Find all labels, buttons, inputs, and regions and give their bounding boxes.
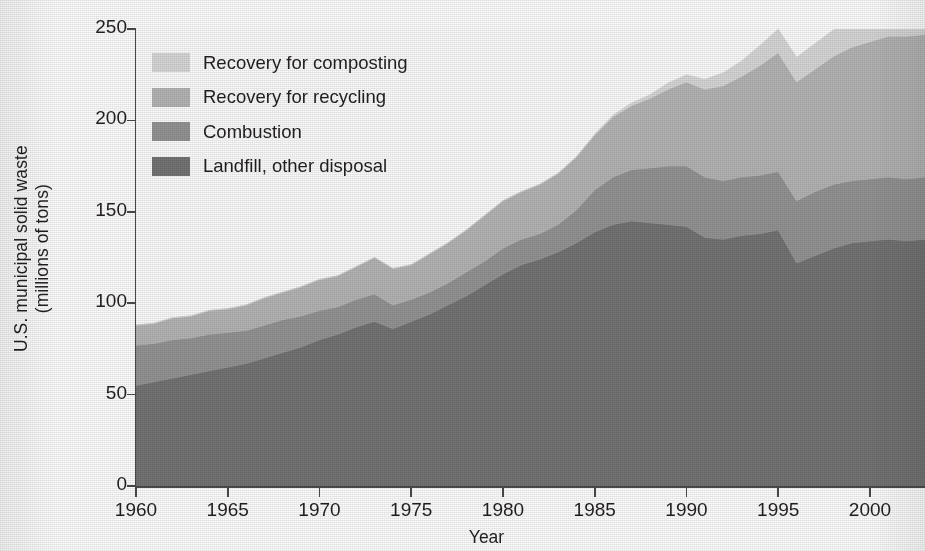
x-tick-label: 2000 xyxy=(825,499,915,521)
x-tick-label: 1980 xyxy=(458,499,548,521)
x-tick-label: 1970 xyxy=(274,499,364,521)
legend-item: Combustion xyxy=(152,117,408,146)
y-axis-title-line-1: U.S. municipal solid waste xyxy=(11,145,31,352)
x-axis-title-text: Year xyxy=(469,527,504,547)
y-axis-title-line-2: (millions of tons) xyxy=(32,69,53,429)
y-tick-label: 200 xyxy=(67,107,127,129)
x-tick-label: 1990 xyxy=(641,499,731,521)
y-tick-label: 100 xyxy=(67,290,127,312)
legend-item: Recovery for composting xyxy=(152,48,408,77)
legend-label: Recovery for composting xyxy=(203,52,408,74)
x-tick-label: 1995 xyxy=(733,499,823,521)
x-tick-mark xyxy=(410,487,412,497)
legend-item: Recovery for recycling xyxy=(152,83,408,112)
legend-label: Recovery for recycling xyxy=(203,86,386,108)
x-tick-label: 1965 xyxy=(183,499,273,521)
x-tick-mark xyxy=(227,487,229,497)
x-axis-title: Year xyxy=(0,527,925,548)
x-tick-mark xyxy=(319,487,321,497)
x-tick-mark xyxy=(686,487,688,497)
legend-swatch-icon xyxy=(152,88,190,107)
legend-label: Combustion xyxy=(203,121,302,143)
legend-label: Landfill, other disposal xyxy=(203,155,387,177)
x-tick-mark xyxy=(869,487,871,497)
x-tick-mark xyxy=(777,487,779,497)
legend-swatch-icon xyxy=(152,157,190,176)
y-tick-label: 50 xyxy=(67,382,127,404)
x-tick-label: 1975 xyxy=(366,499,456,521)
y-tick-label: 150 xyxy=(67,199,127,221)
x-axis-line xyxy=(135,486,925,488)
chart-figure: U.S. municipal solid waste (millions of … xyxy=(0,0,925,551)
x-tick-label: 1960 xyxy=(91,499,181,521)
legend-swatch-icon xyxy=(152,53,190,72)
x-tick-mark xyxy=(135,487,137,497)
x-tick-mark xyxy=(502,487,504,497)
legend-swatch-icon xyxy=(152,122,190,141)
y-tick-label: 250 xyxy=(67,16,127,38)
legend-item: Landfill, other disposal xyxy=(152,152,408,181)
x-tick-mark xyxy=(594,487,596,497)
y-tick-label: 0 xyxy=(67,473,127,495)
chart-legend: Recovery for compostingRecovery for recy… xyxy=(152,48,408,186)
y-axis-title: U.S. municipal solid waste (millions of … xyxy=(11,69,52,429)
x-tick-label: 1985 xyxy=(550,499,640,521)
